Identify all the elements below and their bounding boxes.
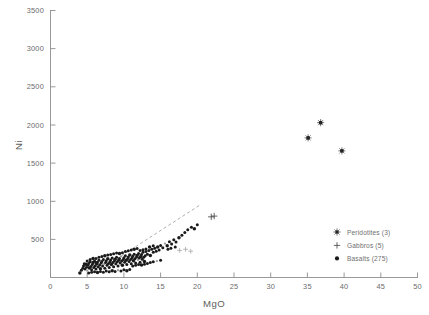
data-point-basalt [133,253,136,256]
data-point-basalt [117,269,119,271]
data-point-basalt [174,245,177,248]
data-point-basalt [159,244,162,247]
data-point-basalt [143,263,146,266]
data-point-basalt [165,244,169,248]
data-point-basalt [115,256,118,259]
data-point-basalt [161,246,164,249]
data-point-basalt [95,257,98,260]
data-point-basalt [103,267,106,270]
data-point-basalt [139,249,142,252]
y-tick-label-1500: 1500 [27,159,44,168]
data-point-basalt [97,256,100,259]
data-point-basalt [196,223,199,226]
y-axis-title: Ni [13,140,24,150]
data-point-basalt [180,234,183,237]
data-point-basalt [159,259,162,262]
data-point-basalt [169,247,172,250]
data-point-basalt [86,269,88,271]
y-tick-label-1000: 1000 [27,197,44,206]
data-point-peridotite [338,147,345,154]
legend-label-basalts: Basalts (275) [347,255,388,263]
y-tick-label-3000: 3000 [27,44,44,53]
x-axis-title: MgO [203,298,225,309]
data-point-basalt [152,244,155,247]
data-point-basalt [177,236,181,240]
circle-icon [335,256,339,260]
data-point-basalt [152,260,155,263]
data-point-basalt [83,262,86,265]
data-point-basalt [117,265,120,268]
data-point-basalt [97,259,100,262]
data-point-basalt [152,251,155,254]
data-point-basalt [108,266,111,269]
data-point-basalt [158,249,161,252]
scatter-plot-figure: 3500 3000 2500 2000 1500 1000 500 0 5 10… [0,0,429,315]
x-tick-label-10: 10 [120,282,129,291]
x-tick-label-30: 30 [266,282,275,291]
data-point-basalt [190,226,193,229]
data-point-basalt [140,263,144,267]
data-point-basalt [90,271,93,274]
data-point-basalt [144,250,147,253]
data-point-basalt [95,268,98,271]
data-point-basalt [170,242,173,245]
data-point-basalt [125,263,128,266]
x-tick-label-35: 35 [303,282,312,291]
data-point-basalt [186,228,189,231]
data-point-basalt [134,264,137,267]
y-tick-label-3500: 3500 [27,6,44,15]
data-point-basalt [111,257,114,260]
data-point-basalt [95,261,98,264]
data-point-basalt [109,253,112,256]
data-point-basalt [130,249,133,252]
data-point-basalt [155,250,158,253]
y-tick-label-2000: 2000 [27,121,44,130]
chart-background [0,0,429,315]
x-tick-label-5: 5 [85,282,89,291]
data-point-basalt [115,252,118,255]
data-point-basalt [164,242,166,244]
data-point-basalt [102,258,105,261]
data-point-basalt [108,270,111,273]
data-point-basalt [128,253,132,257]
data-point-basalt [183,231,186,234]
data-point-basalt [121,251,124,254]
data-point-basalt [112,265,115,268]
data-point-basalt [103,254,107,258]
data-point-basalt [149,254,153,258]
data-point-basalt [193,227,197,231]
data-point-basalt [114,270,117,273]
data-point-basalt [132,248,136,252]
y-tick-label-2500: 2500 [27,82,44,91]
data-point-basalt [125,269,129,273]
data-point-basalt [168,240,171,243]
data-point-basalt [175,241,178,244]
data-point-basalt [141,251,144,254]
data-point-basalt [122,268,125,271]
data-point-basalt [121,264,125,268]
data-point-basalt [136,247,139,250]
y-tick-label-500: 500 [31,235,44,244]
x-tick-label-0: 0 [48,282,52,291]
data-point-basalt [93,270,96,273]
data-point-basalt [141,248,144,251]
legend-label-gabbros: Gabbros (5) [347,242,384,250]
data-point-basalt [106,254,109,257]
data-point-basalt [120,255,122,257]
data-point-basalt [91,257,95,261]
data-point-basalt [144,247,147,250]
x-tick-label-25: 25 [230,282,239,291]
data-point-basalt [110,269,114,273]
data-point-basalt [156,260,158,262]
data-point-basalt [172,238,175,241]
chart-canvas: 3500 3000 2500 2000 1500 1000 500 0 5 10… [0,0,429,315]
data-point-basalt [96,271,100,275]
data-point-basalt [149,261,152,264]
data-point-basalt [105,270,108,273]
data-point-basalt [128,268,131,271]
data-point-basalt [124,250,127,253]
data-point-basalt [137,263,140,266]
data-point-peridotite [317,119,324,126]
data-point-basalt [100,255,103,258]
data-point-peridotite [305,134,312,141]
